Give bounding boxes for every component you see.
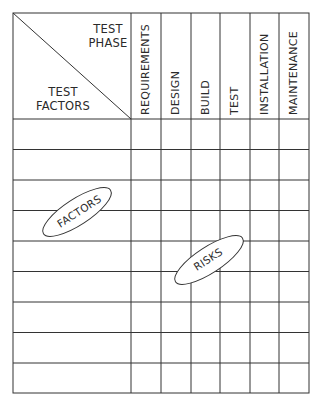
test-factors-label: TEST FACTORS [33, 85, 93, 113]
test-phase-label: TEST PHASE [80, 22, 136, 50]
test-factors-label-line2: FACTORS [33, 99, 93, 113]
phase-header-maintenance: MAINTENANCE [287, 31, 300, 115]
matrix-grid [0, 0, 325, 401]
phase-header-installation: INSTALLATION [258, 34, 271, 115]
phase-header-design: DESIGN [169, 71, 182, 115]
test-factors-label-line1: TEST [33, 85, 93, 99]
phase-header-test: TEST [228, 86, 241, 115]
phase-header-build: BUILD [199, 80, 212, 115]
test-phase-label-line2: PHASE [80, 36, 136, 50]
test-factor-phase-matrix: TEST PHASE TEST FACTORS REQUIREMENTS DES… [0, 0, 325, 401]
phase-header-requirements: REQUIREMENTS [139, 24, 152, 115]
test-phase-label-line1: TEST [80, 22, 136, 36]
